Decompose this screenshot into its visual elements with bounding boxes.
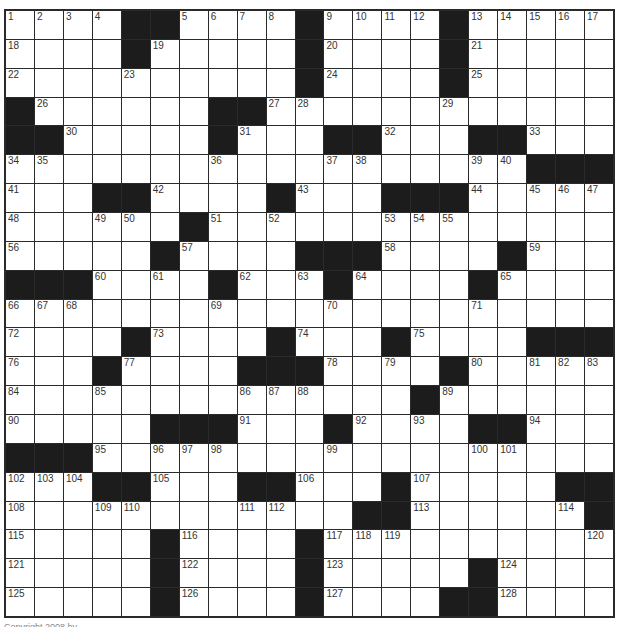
grid-cell[interactable] [353,40,381,68]
grid-cell[interactable] [238,155,266,183]
grid-cell[interactable]: 17 [585,11,613,39]
grid-cell[interactable]: 123 [324,559,352,587]
grid-cell[interactable] [238,530,266,558]
grid-cell[interactable] [64,357,92,385]
grid-cell[interactable]: 27 [267,98,295,126]
grid-cell[interactable] [238,242,266,270]
grid-cell[interactable] [498,184,526,212]
grid-cell[interactable] [296,502,324,530]
grid-cell[interactable] [35,328,63,356]
grid-cell[interactable] [353,300,381,328]
grid-cell[interactable] [411,271,439,299]
grid-cell[interactable] [93,98,121,126]
grid-cell[interactable]: 97 [180,444,208,472]
grid-cell[interactable] [556,415,584,443]
grid-cell[interactable] [498,213,526,241]
grid-cell[interactable] [556,242,584,270]
grid-cell[interactable]: 53 [382,213,410,241]
grid-cell[interactable] [527,559,555,587]
grid-cell[interactable] [353,444,381,472]
grid-cell[interactable] [527,300,555,328]
grid-cell[interactable]: 96 [151,444,179,472]
grid-cell[interactable] [209,184,237,212]
grid-cell[interactable] [180,126,208,154]
grid-cell[interactable] [411,530,439,558]
grid-cell[interactable] [35,357,63,385]
grid-cell[interactable]: 70 [324,300,352,328]
grid-cell[interactable] [180,386,208,414]
grid-cell[interactable]: 14 [498,11,526,39]
grid-cell[interactable] [382,559,410,587]
grid-cell[interactable]: 112 [267,502,295,530]
grid-cell[interactable]: 105 [151,473,179,501]
grid-cell[interactable] [238,69,266,97]
grid-cell[interactable]: 99 [324,444,352,472]
grid-cell[interactable]: 16 [556,11,584,39]
grid-cell[interactable] [353,98,381,126]
grid-cell[interactable]: 43 [296,184,324,212]
grid-cell[interactable] [469,213,497,241]
grid-cell[interactable] [527,473,555,501]
grid-cell[interactable] [498,502,526,530]
grid-cell[interactable]: 59 [527,242,555,270]
grid-cell[interactable] [556,40,584,68]
grid-cell[interactable] [267,415,295,443]
grid-cell[interactable] [267,155,295,183]
grid-cell[interactable]: 76 [6,357,34,385]
grid-cell[interactable] [267,559,295,587]
grid-cell[interactable] [440,559,468,587]
grid-cell[interactable]: 68 [64,300,92,328]
grid-cell[interactable] [527,69,555,97]
grid-cell[interactable] [296,444,324,472]
grid-cell[interactable]: 36 [209,155,237,183]
grid-cell[interactable]: 42 [151,184,179,212]
grid-cell[interactable]: 89 [440,386,468,414]
grid-cell[interactable]: 77 [122,357,150,385]
grid-cell[interactable] [35,588,63,616]
grid-cell[interactable]: 18 [6,40,34,68]
grid-cell[interactable] [324,502,352,530]
grid-cell[interactable]: 6 [209,11,237,39]
grid-cell[interactable] [64,588,92,616]
grid-cell[interactable] [122,530,150,558]
grid-cell[interactable] [296,415,324,443]
grid-cell[interactable] [122,444,150,472]
grid-cell[interactable] [498,530,526,558]
grid-cell[interactable]: 57 [180,242,208,270]
grid-cell[interactable] [122,126,150,154]
grid-cell[interactable] [238,588,266,616]
grid-cell[interactable] [411,242,439,270]
grid-cell[interactable] [498,328,526,356]
grid-cell[interactable] [35,386,63,414]
grid-cell[interactable]: 60 [93,271,121,299]
grid-cell[interactable] [35,530,63,558]
grid-cell[interactable] [556,126,584,154]
grid-cell[interactable] [296,213,324,241]
grid-cell[interactable] [527,502,555,530]
grid-cell[interactable]: 5 [180,11,208,39]
grid-cell[interactable]: 38 [353,155,381,183]
grid-cell[interactable]: 45 [527,184,555,212]
grid-cell[interactable] [527,588,555,616]
grid-cell[interactable] [556,271,584,299]
grid-cell[interactable] [151,213,179,241]
grid-cell[interactable] [585,444,613,472]
grid-cell[interactable]: 31 [238,126,266,154]
grid-cell[interactable] [238,328,266,356]
grid-cell[interactable] [585,271,613,299]
grid-cell[interactable] [585,588,613,616]
grid-cell[interactable] [296,155,324,183]
grid-cell[interactable]: 24 [324,69,352,97]
grid-cell[interactable] [35,502,63,530]
grid-cell[interactable]: 127 [324,588,352,616]
grid-cell[interactable] [64,40,92,68]
grid-cell[interactable] [122,271,150,299]
grid-cell[interactable] [122,242,150,270]
grid-cell[interactable]: 91 [238,415,266,443]
grid-cell[interactable] [180,473,208,501]
grid-cell[interactable]: 92 [353,415,381,443]
grid-cell[interactable] [151,126,179,154]
grid-cell[interactable] [180,155,208,183]
grid-cell[interactable] [151,386,179,414]
grid-cell[interactable]: 1 [6,11,34,39]
